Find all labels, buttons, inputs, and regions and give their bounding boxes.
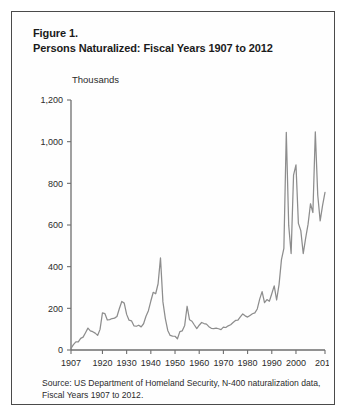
svg-text:1907: 1907 bbox=[61, 358, 81, 368]
figure-frame: Figure 1. Persons Naturalized: Fiscal Ye… bbox=[11, 11, 335, 405]
svg-text:2000: 2000 bbox=[286, 358, 306, 368]
svg-text:1970: 1970 bbox=[213, 358, 233, 368]
svg-text:1,200: 1,200 bbox=[40, 95, 63, 105]
y-axis-unit-label: Thousands bbox=[72, 74, 119, 85]
svg-text:1,000: 1,000 bbox=[40, 137, 63, 147]
svg-text:400: 400 bbox=[48, 262, 63, 272]
figure-title: Figure 1. Persons Naturalized: Fiscal Ye… bbox=[33, 26, 323, 56]
svg-text:1950: 1950 bbox=[165, 358, 185, 368]
figure-title-line-2: Persons Naturalized: Fiscal Years 1907 t… bbox=[33, 41, 323, 56]
svg-text:1940: 1940 bbox=[141, 358, 161, 368]
svg-text:0: 0 bbox=[58, 345, 63, 355]
svg-text:1930: 1930 bbox=[117, 358, 137, 368]
svg-text:200: 200 bbox=[48, 304, 63, 314]
chart-plot-area: 02004006008001,0001,200 1907192019301940… bbox=[33, 88, 329, 370]
svg-text:1960: 1960 bbox=[189, 358, 209, 368]
y-axis-tick-labels: 02004006008001,0001,200 bbox=[40, 95, 63, 355]
data-series-line bbox=[71, 132, 325, 348]
svg-text:2012: 2012 bbox=[315, 358, 329, 368]
source-note: Source: US Department of Homeland Securi… bbox=[42, 378, 324, 401]
svg-text:1980: 1980 bbox=[238, 358, 258, 368]
svg-text:1990: 1990 bbox=[262, 358, 282, 368]
figure-title-line-1: Figure 1. bbox=[33, 27, 78, 39]
svg-text:1920: 1920 bbox=[92, 358, 112, 368]
svg-text:800: 800 bbox=[48, 179, 63, 189]
naturalization-line-chart: 02004006008001,0001,200 1907192019301940… bbox=[33, 88, 329, 370]
x-axis-tick-labels: 1907192019301940195019601970198019902000… bbox=[61, 358, 329, 368]
svg-text:600: 600 bbox=[48, 220, 63, 230]
